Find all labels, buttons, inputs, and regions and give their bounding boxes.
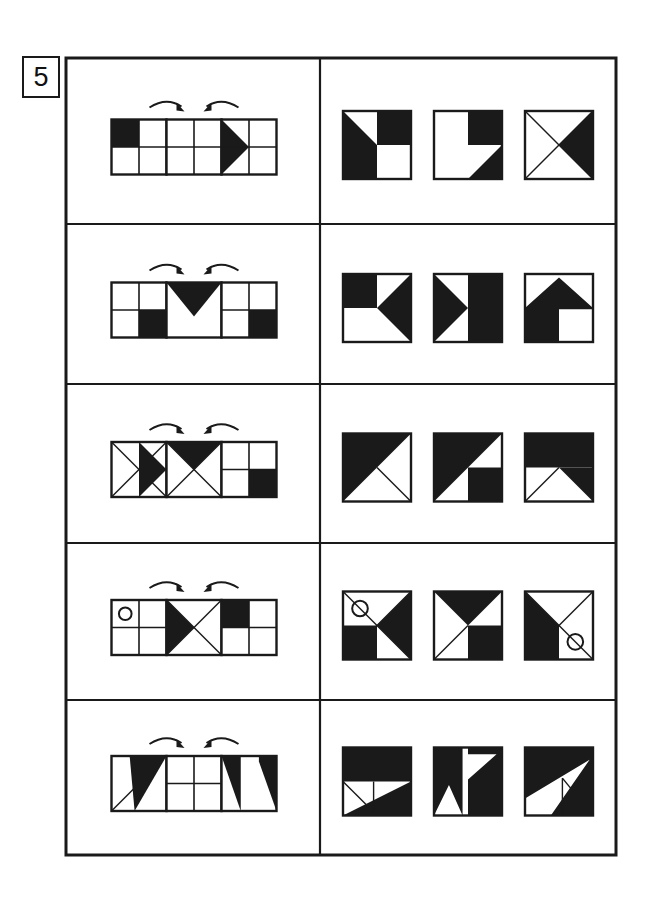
arrow-head: [177, 266, 185, 275]
row-4-option-3[interactable]: [525, 592, 593, 660]
row-3-sequence-cell-1[interactable]: [112, 442, 167, 497]
quadrant-fill: [377, 111, 411, 145]
row-3-options: [343, 434, 593, 502]
arrow-head: [204, 266, 212, 275]
row-1-arrow-2: [204, 102, 239, 112]
row-5-option-1[interactable]: [343, 748, 411, 816]
row-3-option-2[interactable]: [434, 434, 502, 502]
row-5-option-3[interactable]: [525, 748, 593, 816]
row-2-arrow-1: [150, 265, 185, 275]
sequence-row-1: [112, 102, 277, 175]
sequence-row-4: [112, 582, 277, 655]
quadrant-fill: [139, 310, 167, 338]
row-3-arrow-2: [204, 424, 239, 434]
row-4-option-1[interactable]: [343, 592, 411, 660]
row-5-sequence-cell-1[interactable]: [112, 756, 167, 811]
row-5: [112, 738, 594, 815]
row-5-options: [343, 748, 593, 816]
sequence-row-2: [112, 265, 277, 338]
quadrant-fill: [468, 111, 502, 145]
row-3: [112, 424, 594, 501]
row-4-arrow-2: [204, 582, 239, 592]
exercise-number-box: 5: [22, 56, 60, 98]
row-3-arrow-1: [150, 424, 185, 434]
sequence-row-3: [112, 424, 277, 497]
row-4: [112, 582, 594, 659]
quadrant-fill: [468, 468, 502, 502]
quadrant-fill: [343, 274, 377, 308]
row-4-sequence-cell-1[interactable]: [112, 600, 167, 655]
row-4-arrow-1: [150, 582, 185, 592]
row-3-option-3[interactable]: [525, 434, 593, 502]
row-1-options: [343, 111, 593, 179]
arrow-head: [177, 103, 185, 112]
row-1-arrow-1: [150, 102, 185, 112]
quadrant-fill: [525, 626, 559, 660]
row-2-sequence-cell-1[interactable]: [112, 283, 167, 338]
row-1-option-2[interactable]: [434, 111, 502, 179]
quadrant-fill: [468, 626, 502, 660]
row-2-arrow-2: [204, 265, 239, 275]
arrow-head: [204, 103, 212, 112]
worksheet-page: 5: [0, 0, 648, 907]
row-2-option-1[interactable]: [343, 274, 411, 342]
row-3-sequence-cell-2[interactable]: [167, 442, 222, 497]
half-fill: [525, 434, 593, 468]
row-2-sequence-cell-3[interactable]: [222, 283, 277, 338]
quadrant-fill: [112, 120, 140, 148]
row-2-option-2[interactable]: [434, 274, 502, 342]
row-2-sequence-cell-2[interactable]: [167, 283, 222, 338]
quadrant-fill: [249, 310, 277, 338]
row-1-option-1[interactable]: [343, 111, 411, 179]
row-1-sequence-cell-1[interactable]: [112, 120, 167, 175]
row-4-sequence-cell-2[interactable]: [167, 600, 222, 655]
quadrant-fill: [249, 470, 277, 498]
quadrant-fill: [343, 626, 377, 660]
row-4-option-2[interactable]: [434, 592, 502, 660]
half-fill: [343, 748, 411, 782]
row-5-sequence-cell-3[interactable]: [222, 756, 277, 811]
row-4-options: [343, 592, 593, 660]
row-5-arrow-1: [150, 738, 185, 748]
puzzle-board: [0, 0, 648, 907]
row-1-option-3[interactable]: [525, 111, 593, 179]
arrow-head: [177, 425, 185, 434]
sequence-row-5: [112, 738, 277, 811]
row-2-option-3[interactable]: [525, 274, 593, 342]
row-2-options: [343, 274, 593, 342]
row-5-arrow-2: [204, 738, 239, 748]
row-4-sequence-cell-3[interactable]: [222, 600, 277, 655]
row-5-sequence-cell-2[interactable]: [167, 756, 222, 811]
row-3-option-1[interactable]: [343, 434, 411, 502]
half-fill: [468, 274, 502, 342]
arrow-head: [204, 425, 212, 434]
row-1: [112, 102, 594, 179]
exercise-number: 5: [33, 64, 48, 91]
row-2: [112, 265, 594, 342]
row-1-sequence-cell-3[interactable]: [222, 120, 277, 175]
row-1-sequence-cell-2[interactable]: [167, 120, 222, 175]
row-5-option-2[interactable]: [434, 748, 502, 816]
quadrant-fill: [222, 600, 250, 628]
row-3-sequence-cell-3[interactable]: [222, 442, 277, 497]
